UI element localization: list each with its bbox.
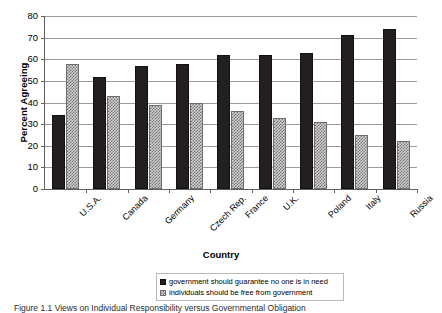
y-axis-tick-label: 60: [14, 55, 38, 65]
bar: [300, 53, 313, 189]
x-axis-tick-labels: U.S.A.CanadaGermanyCzech Rep.FranceU.K.P…: [44, 191, 416, 233]
legend-swatch-checkered-gray-icon: [160, 290, 166, 296]
figure-caption: Figure 1.1 Views on Individual Responsib…: [14, 303, 434, 313]
y-axis-tick-label: 20: [14, 141, 38, 151]
y-axis-tick-label: 80: [14, 11, 38, 21]
bar-group: [252, 16, 293, 189]
x-axis-tick-label: U.K.: [281, 193, 300, 212]
x-axis-tick-label: France: [243, 193, 270, 220]
y-axis-tick-label: 10: [14, 163, 38, 173]
bar-group: [128, 16, 169, 189]
y-axis-tick-label: 0: [14, 184, 38, 194]
bar: [397, 141, 410, 189]
bar: [383, 29, 396, 189]
x-axis-tick-label: U.S.A.: [77, 193, 102, 218]
bar: [66, 64, 79, 189]
y-axis-tick-label: 30: [14, 119, 38, 129]
bar-group: [86, 16, 127, 189]
bar-group: [334, 16, 375, 189]
legend-item-label: government should guarantee no one is in…: [169, 277, 328, 286]
bar: [52, 115, 65, 189]
bar: [135, 66, 148, 189]
bar: [93, 77, 106, 189]
x-axis-tick-label: Germany: [163, 193, 196, 226]
plot-area: [44, 16, 417, 190]
x-axis-title: Country: [0, 249, 442, 260]
legend-swatch-solid-black-icon: [160, 279, 166, 285]
bar-group: [45, 16, 86, 189]
y-axis-tick-label: 50: [14, 76, 38, 86]
bar: [231, 111, 244, 189]
x-axis-tick-label: Canada: [120, 193, 149, 222]
bar: [259, 55, 272, 189]
y-axis-tick-label: 40: [14, 98, 38, 108]
chart-legend: government should guarantee no one is in…: [156, 273, 344, 301]
bar: [314, 122, 327, 189]
bar: [107, 96, 120, 189]
x-axis-tick-label: Italy: [364, 193, 383, 212]
bar-group: [169, 16, 210, 189]
bar: [176, 64, 189, 189]
x-axis-tick-label: Russia: [408, 193, 435, 220]
x-axis-tick-label: Czech Rep.: [207, 193, 247, 233]
legend-item-label: individuals should be free from governme…: [169, 288, 312, 297]
legend-item: individuals should be free from governme…: [160, 287, 340, 298]
bar: [341, 35, 354, 189]
bar: [190, 103, 203, 190]
bar: [273, 118, 286, 189]
y-axis-tick-mark: [41, 189, 45, 190]
bar: [149, 105, 162, 189]
bar-group: [210, 16, 251, 189]
bar: [217, 55, 230, 189]
legend-item: government should guarantee no one is in…: [160, 276, 340, 287]
x-axis-tick-label: Poland: [326, 193, 353, 220]
y-axis-tick-labels: 01020304050607080: [14, 16, 38, 189]
bar: [355, 135, 368, 189]
x-axis-tick-mark: [417, 189, 418, 193]
y-axis-tick-label: 70: [14, 33, 38, 43]
bar-group: [293, 16, 334, 189]
bar-group: [376, 16, 417, 189]
